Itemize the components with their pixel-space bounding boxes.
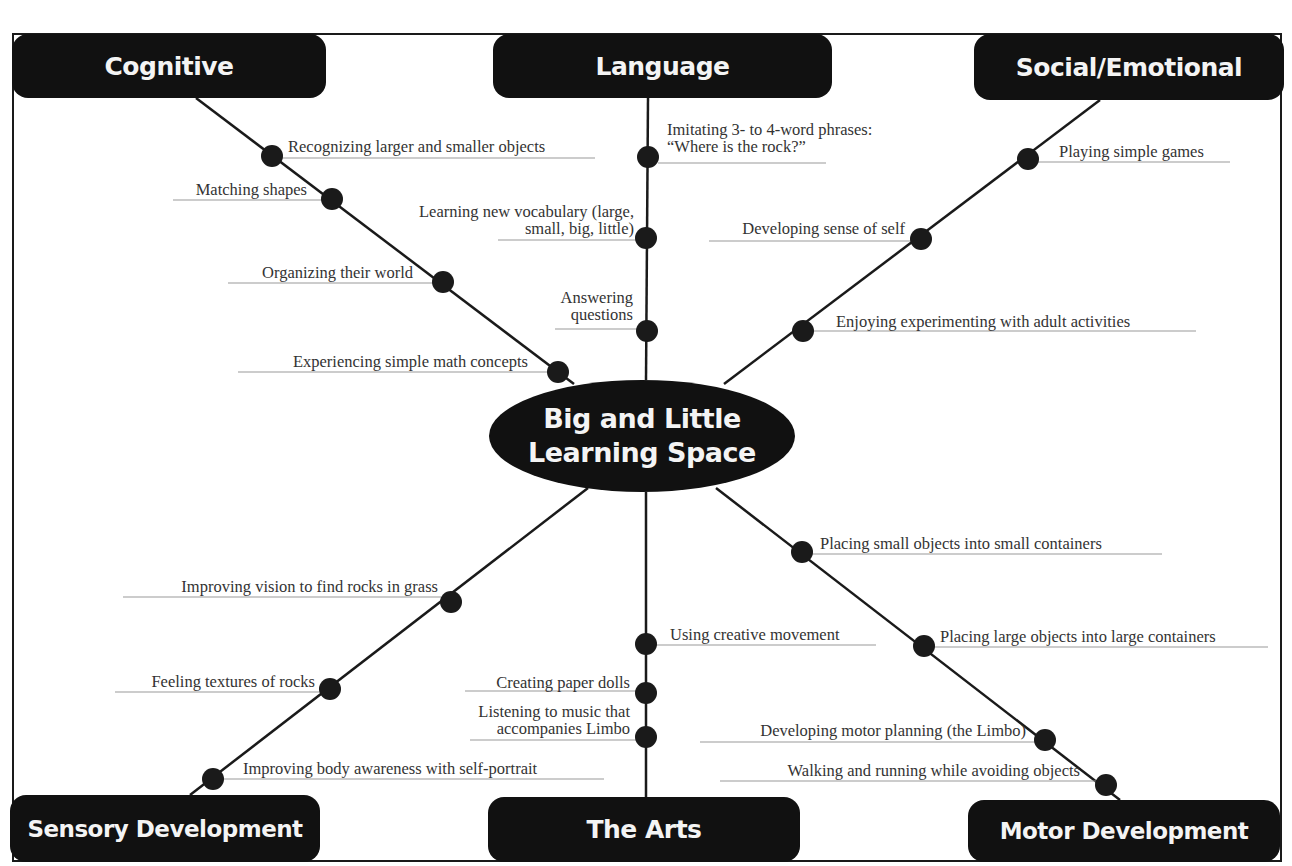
item-label: Feeling textures of rocks — [151, 673, 315, 690]
item-label-line: Imitating 3- to 4-word phrases: — [667, 121, 872, 138]
category-box-social-emotional: Social/Emotional — [974, 34, 1284, 100]
node-dot — [635, 726, 657, 748]
item-label-line: Placing large objects into large contain… — [940, 628, 1216, 645]
item-label: Learning new vocabulary (large,small, bi… — [419, 203, 634, 237]
branch-the-arts — [465, 492, 876, 797]
diagram-canvas: CognitiveLanguageSocial/EmotionalSensory… — [0, 0, 1292, 866]
item-label-line: accompanies Limbo — [478, 720, 630, 737]
item-label-line: Matching shapes — [196, 181, 307, 198]
item-label: Imitating 3- to 4-word phrases:“Where is… — [667, 121, 872, 155]
item-label-line: small, big, little) — [419, 220, 634, 237]
node-dot — [440, 591, 462, 613]
item-label-line: Recognizing larger and smaller objects — [288, 138, 545, 155]
item-label: Answeringquestions — [561, 289, 633, 323]
node-dot — [913, 635, 935, 657]
item-label: Listening to music thataccompanies Limbo — [478, 703, 630, 737]
item-label: Placing small objects into small contain… — [820, 535, 1102, 552]
item-label-line: Placing small objects into small contain… — [820, 535, 1102, 552]
item-label-line: Using creative movement — [670, 626, 840, 643]
node-dot — [547, 361, 569, 383]
branch-sensory-development — [115, 488, 604, 795]
item-label-line: Walking and running while avoiding objec… — [788, 762, 1080, 779]
category-box-cognitive: Cognitive — [12, 34, 326, 98]
item-label: Developing sense of self — [742, 220, 905, 237]
item-label-line: Creating paper dolls — [496, 674, 630, 691]
node-dot — [1017, 148, 1039, 170]
item-label-line: Organizing their world — [262, 264, 413, 281]
node-dot — [635, 633, 657, 655]
category-label: Sensory Development — [27, 816, 302, 842]
item-label-line: Listening to music that — [478, 703, 630, 720]
node-dot — [910, 228, 932, 250]
item-label: Walking and running while avoiding objec… — [788, 762, 1080, 779]
item-label-line: Developing sense of self — [742, 220, 905, 237]
node-dot — [432, 271, 454, 293]
item-label: Placing large objects into large contain… — [940, 628, 1216, 645]
node-dot — [202, 768, 224, 790]
item-label-line: Feeling textures of rocks — [151, 673, 315, 690]
node-dot — [637, 146, 659, 168]
node-dot — [321, 188, 343, 210]
node-dot — [261, 145, 283, 167]
item-label-line: “Where is the rock?” — [667, 138, 872, 155]
item-label-line: Improving vision to find rocks in grass — [181, 578, 438, 595]
branch-line — [190, 488, 588, 795]
central-topic-line2: Learning Space — [528, 436, 756, 470]
item-label: Improving vision to find rocks in grass — [181, 578, 438, 595]
node-dot — [636, 320, 658, 342]
item-label-line: Enjoying experimenting with adult activi… — [836, 313, 1130, 330]
central-topic-oval: Big and Little Learning Space — [489, 380, 795, 492]
item-label-line: Improving body awareness with self-portr… — [243, 760, 537, 777]
category-label: Motor Development — [1000, 818, 1249, 844]
item-label: Matching shapes — [196, 181, 307, 198]
category-label: The Arts — [586, 815, 701, 844]
category-label: Social/Emotional — [1016, 53, 1242, 82]
node-dot — [635, 682, 657, 704]
item-label: Organizing their world — [262, 264, 413, 281]
item-label: Developing motor planning (the Limbo) — [760, 722, 1026, 739]
item-label: Enjoying experimenting with adult activi… — [836, 313, 1130, 330]
node-dot — [635, 227, 657, 249]
category-box-language: Language — [493, 34, 832, 98]
item-label-line: Experiencing simple math concepts — [293, 353, 528, 370]
node-dot — [791, 541, 813, 563]
item-label: Creating paper dolls — [496, 674, 630, 691]
item-label-line: Learning new vocabulary (large, — [419, 203, 634, 220]
item-label: Playing simple games — [1059, 143, 1204, 160]
item-label-line: questions — [561, 306, 633, 323]
node-dot — [1095, 774, 1117, 796]
item-label-line: Playing simple games — [1059, 143, 1204, 160]
node-dot — [1034, 729, 1056, 751]
item-label: Using creative movement — [670, 626, 840, 643]
item-label-line: Developing motor planning (the Limbo) — [760, 722, 1026, 739]
node-dot — [319, 678, 341, 700]
item-label: Experiencing simple math concepts — [293, 353, 528, 370]
category-box-sensory-development: Sensory Development — [10, 795, 320, 862]
item-label-line: Answering — [561, 289, 633, 306]
node-dot — [792, 320, 814, 342]
category-box-motor-development: Motor Development — [968, 800, 1280, 862]
central-topic-line1: Big and Little — [543, 402, 741, 436]
category-label: Cognitive — [104, 52, 233, 81]
item-label: Improving body awareness with self-portr… — [243, 760, 537, 777]
category-label: Language — [595, 52, 729, 81]
category-box-the-arts: The Arts — [488, 797, 800, 862]
item-label: Recognizing larger and smaller objects — [288, 138, 545, 155]
